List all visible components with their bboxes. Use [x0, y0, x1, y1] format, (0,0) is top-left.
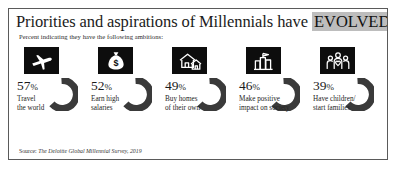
stat-caption: Travel the world — [17, 95, 87, 113]
svg-text:$: $ — [113, 58, 118, 68]
money-bag-icon: $ — [98, 47, 133, 74]
caption-line-2: impact on society — [239, 104, 309, 113]
stat-caption: Buy homes of their own — [165, 95, 235, 113]
source-prefix: Source: — [19, 148, 38, 154]
stat-caption: Have children/ start families — [313, 95, 383, 113]
stat-percent: 57% — [17, 79, 38, 93]
stat-item: $ 52% Earn high salaries — [89, 45, 161, 137]
subtitle: Percent indicating they have the followi… — [19, 33, 163, 40]
source-citation: The Deloitte Global Millennial Survey, 2… — [38, 148, 141, 154]
caption-line-2: of their own — [165, 104, 235, 113]
caption-line-1: Have children/ — [313, 95, 356, 103]
stat-item: 57% Travel the world — [15, 45, 87, 137]
caption-line-1: Earn high — [91, 95, 119, 103]
city-buildings-icon — [246, 47, 281, 74]
title-main-text: Priorities and aspirations of Millennial… — [16, 12, 312, 31]
family-heart-icon — [320, 47, 355, 74]
caption-line-2: salaries — [91, 104, 161, 113]
infographic-card: Priorities and aspirations of Millennial… — [8, 8, 388, 160]
stat-item: 49% Buy homes of their own — [163, 45, 235, 137]
source-note: Source: The Deloitte Global Millennial S… — [19, 148, 142, 154]
caption-line-2: the world — [17, 104, 87, 113]
stat-percent: 46% — [239, 79, 260, 93]
page-title: Priorities and aspirations of Millennial… — [16, 12, 383, 32]
stat-percent: 39% — [313, 79, 334, 93]
stat-caption: Make positive impact on society — [239, 95, 309, 113]
stat-caption: Earn high salaries — [91, 95, 161, 113]
stats-row: 57% Travel the world $ 52% Earn high s — [15, 45, 383, 137]
caption-line-1: Travel — [17, 95, 36, 103]
airplane-icon — [24, 47, 59, 74]
stat-item: 39% Have children/ start families — [311, 45, 383, 137]
caption-line-1: Make positive — [239, 95, 280, 103]
stat-percent: 49% — [165, 79, 186, 93]
caption-line-1: Buy homes — [165, 95, 198, 103]
title-highlight-text: EVOLVED — [312, 12, 388, 31]
houses-icon — [172, 47, 207, 74]
stat-percent: 52% — [91, 79, 112, 93]
caption-line-2: start families — [313, 104, 383, 113]
stat-item: 46% Make positive impact on society — [237, 45, 309, 137]
